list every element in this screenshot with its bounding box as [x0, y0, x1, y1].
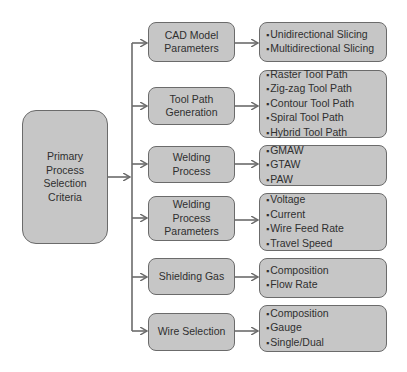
node-shielding-gas: Shielding Gas	[148, 258, 235, 295]
node-label: CAD Model	[164, 29, 218, 43]
list-item: Raster Tool Path	[266, 68, 380, 83]
list-cad-model-parameters: Unidirectional Slicing Multidirectional …	[259, 22, 387, 62]
root-line: Criteria	[43, 191, 86, 205]
list-item: Wire Feed Rate	[266, 222, 380, 237]
list-item: Voltage	[266, 193, 380, 208]
node-label: Process	[164, 212, 218, 226]
list-item: Composition	[266, 307, 380, 322]
root-node: Primary Process Selection Criteria	[22, 110, 108, 244]
node-tool-path-generation: Tool PathGeneration	[148, 87, 235, 125]
node-welding-process: WeldingProcess	[148, 146, 235, 183]
node-label: Generation	[166, 106, 218, 120]
node-label: Welding	[164, 198, 218, 212]
node-label: Shielding Gas	[159, 270, 224, 284]
list-item: Composition	[266, 264, 380, 279]
list-item: Travel Speed	[266, 237, 380, 252]
list-item: Hybrid Tool Path	[266, 126, 380, 141]
list-item: Multidirectional Slicing	[266, 42, 380, 57]
node-welding-process-parameters: WeldingProcessParameters	[148, 196, 235, 241]
root-line: Process	[43, 164, 86, 178]
list-item: GMAW	[266, 144, 380, 159]
list-item: Contour Tool Path	[266, 97, 380, 112]
node-cad-model-parameters: CAD ModelParameters	[148, 22, 235, 62]
list-item: Zig-zag Tool Path	[266, 82, 380, 97]
node-label: Process	[173, 165, 211, 179]
node-label: Parameters	[164, 225, 218, 239]
list-item: Flow Rate	[266, 278, 380, 293]
list-welding-process-parameters: Voltage Current Wire Feed Rate Travel Sp…	[259, 193, 387, 251]
root-line: Selection	[43, 177, 86, 191]
list-item: Spiral Tool Path	[266, 111, 380, 126]
list-item: GTAW	[266, 158, 380, 173]
list-item: PAW	[266, 173, 380, 188]
list-welding-process: GMAW GTAW PAW	[259, 145, 387, 186]
list-item: Single/Dual	[266, 336, 380, 351]
node-label: Tool Path	[166, 93, 218, 107]
list-shielding-gas: Composition Flow Rate	[259, 258, 387, 298]
list-item: Unidirectional Slicing	[266, 28, 380, 43]
list-item: Gauge	[266, 321, 380, 336]
node-wire-selection: Wire Selection	[148, 313, 235, 351]
list-item: Current	[266, 208, 380, 223]
node-label: Wire Selection	[158, 325, 226, 339]
node-label: Welding	[173, 151, 211, 165]
node-label: Parameters	[164, 42, 218, 56]
root-line: Primary	[43, 150, 86, 164]
list-wire-selection: Composition Gauge Single/Dual	[259, 305, 387, 352]
list-tool-path-generation: Raster Tool Path Zig-zag Tool Path Conto…	[259, 70, 387, 138]
